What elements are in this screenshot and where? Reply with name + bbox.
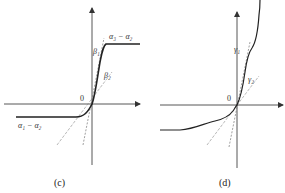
label-beta1: β₁ xyxy=(92,47,100,56)
panel-d: 0 γ₁ γ₂ (d) xyxy=(160,0,283,189)
label-gamma2: γ₂ xyxy=(248,75,254,84)
panel-c: 0 α₃ − α₂ β₁ β₂ α₁ − α₂ (c) xyxy=(4,8,140,189)
origin-label: 0 xyxy=(227,94,231,103)
caption-c: (c) xyxy=(54,177,65,189)
response-curve xyxy=(160,0,260,130)
caption-d: (d) xyxy=(219,177,231,189)
origin-label: 0 xyxy=(80,94,84,103)
label-upper-plateau: α₃ − α₂ xyxy=(109,32,133,41)
response-curve xyxy=(16,44,140,117)
label-lower-plateau: α₁ − α₂ xyxy=(18,121,42,130)
tangent-beta2 xyxy=(57,72,112,145)
tangent-gamma1 xyxy=(229,42,250,147)
label-gamma1: γ₁ xyxy=(234,45,240,54)
diagram-canvas: 0 α₃ − α₂ β₁ β₂ α₁ − α₂ (c) 0 γ₁ γ₂ (d) xyxy=(0,0,285,193)
label-beta2: β₂ xyxy=(103,71,111,80)
